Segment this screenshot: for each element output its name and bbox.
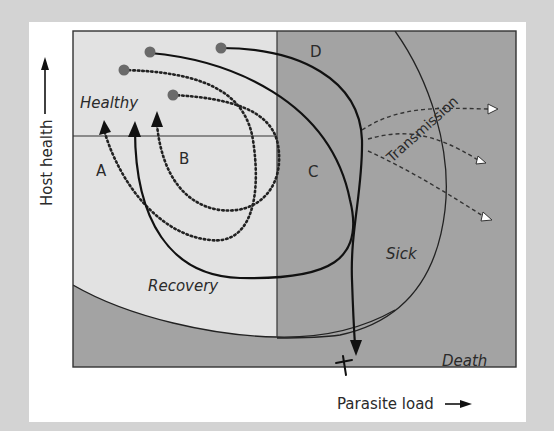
dot-icon — [168, 90, 179, 101]
sick-label: Sick — [386, 245, 418, 263]
recovery-label: Recovery — [148, 277, 219, 295]
arrow-up-icon — [41, 57, 49, 114]
x-axis-label: Parasite load — [337, 395, 434, 413]
dot-icon — [145, 47, 156, 58]
y-axis-label: Host health — [38, 120, 56, 206]
trajectory-a-label: A — [96, 162, 107, 180]
arrow-right-icon — [445, 400, 472, 408]
dot-icon — [216, 43, 227, 54]
trajectory-b-label: B — [179, 150, 189, 168]
death-label: Death — [442, 352, 487, 370]
healthy-label: Healthy — [80, 94, 139, 112]
trajectory-d-label: D — [310, 43, 322, 61]
dot-icon — [119, 65, 130, 76]
host-health-diagram: Healthy Recovery Sick Death Transmission… — [0, 0, 554, 431]
trajectory-c-label: C — [308, 163, 318, 181]
